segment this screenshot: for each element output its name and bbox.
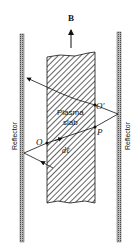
- slab-label-line2: slab: [63, 118, 78, 127]
- label-P: P: [96, 127, 103, 137]
- plasma-slab-diagram: B O O′ P dℓ Plasma slab Reflector Reflec…: [0, 0, 140, 247]
- field-label: B: [68, 13, 74, 23]
- label-O: O: [36, 137, 43, 147]
- slab-label-line1: Plasma: [57, 108, 84, 117]
- label-dl: dℓ: [62, 146, 70, 155]
- right-reflector: [117, 32, 121, 242]
- left-reflector: [20, 34, 24, 242]
- magnetic-field-arrow: B: [68, 13, 74, 48]
- left-reflector-label: Reflector: [11, 121, 18, 150]
- plasma-slab: [47, 52, 95, 203]
- right-reflector-label: Reflector: [124, 121, 131, 150]
- point-O: [46, 142, 49, 145]
- label-O-prime: O′: [96, 101, 105, 111]
